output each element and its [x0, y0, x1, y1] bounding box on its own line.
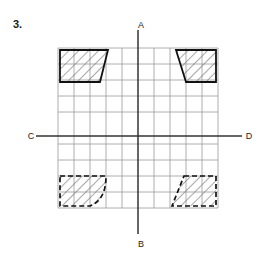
grid-diagram	[0, 0, 268, 262]
shape-bottom-right-parallelogram	[172, 176, 216, 206]
shape-top-right-fill	[176, 50, 216, 82]
shape-top-left-trapezoid	[60, 50, 108, 82]
figure-container: 3. A B C D	[0, 0, 268, 262]
shape-top-right-trapezoid	[176, 50, 216, 82]
shape-bottom-left-fill	[60, 176, 106, 206]
shape-bottom-left-curved	[60, 176, 106, 206]
